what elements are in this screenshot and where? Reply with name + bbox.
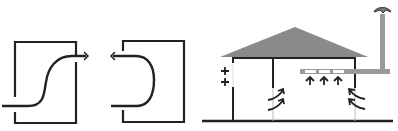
middle-airflow-arrows (268, 89, 284, 110)
up-arrow-icon (306, 77, 314, 85)
duct-grille-2 (319, 70, 330, 73)
rotating-cowl-icon (374, 8, 391, 14)
right-arrow-icon (221, 78, 229, 86)
right-airflow-arrows (349, 89, 365, 109)
u-turn-box-panel (111, 41, 184, 122)
curved-arrow-icon (268, 99, 284, 110)
diagram-canvas (0, 0, 398, 131)
curved-arrow-icon (349, 89, 365, 99)
curved-arrow-icon (349, 99, 365, 109)
roof (220, 27, 368, 57)
s-flow-box-panel (2, 42, 88, 123)
u-turn-airflow (111, 56, 154, 106)
duct-end-cap (386, 69, 390, 74)
up-arrows (306, 77, 342, 85)
curved-arrow-icon (268, 89, 284, 100)
up-arrow-icon (320, 77, 328, 85)
duct-grille-1 (305, 70, 316, 73)
duct-grille-3 (333, 70, 344, 73)
right-arrow-icon (221, 67, 229, 75)
ventilation-diagram (0, 0, 398, 131)
house-ventilation-panel (202, 8, 393, 122)
up-arrow-icon (334, 77, 342, 85)
wall-inlet-arrows (221, 67, 229, 86)
chimney-pipe (380, 14, 385, 72)
